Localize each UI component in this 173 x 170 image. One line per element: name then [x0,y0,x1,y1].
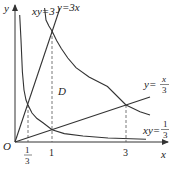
curve-xy-equals-3 [45,8,150,115]
label-xy-equals-3: xy=3 [31,5,55,17]
label-xy-equals-one-third-prefix: xy= [142,124,160,136]
label-y-equals-x-over-3-den: 3 [162,85,167,95]
label-xy-equals-one-third-num: 1 [163,119,168,129]
tick-one-third-den: 3 [25,156,30,166]
curve-y-equals-x-over-3 [15,97,150,142]
label-y-equals-x-over-3-num: x [161,74,166,84]
tick-three: 3 [123,147,128,158]
label-xy-equals-one-third-den: 3 [163,130,168,140]
x-axis-label: x [160,148,166,160]
origin-label: O [3,140,11,152]
tick-one-third-num: 1 [25,145,30,155]
tick-one: 1 [49,147,54,158]
y-axis-label: y [3,2,9,14]
label-y-equals-3x: y=3x [56,1,80,13]
curve-y-equals-3x [15,8,60,142]
region-d-label: D [57,85,66,97]
curve-xy-equals-one-third [20,15,146,139]
diagram-canvas: y x O xy=3 y=3x y= x 3 xy= 1 3 D 1 3 1 3 [0,0,173,170]
label-y-equals-x-over-3-prefix: y= [143,78,156,90]
